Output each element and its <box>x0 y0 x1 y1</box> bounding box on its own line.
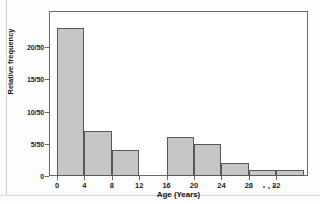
y-tick-label: 5/50 <box>31 140 44 147</box>
histogram-bar <box>112 150 139 176</box>
y-tick-label: 20/50 <box>27 44 44 51</box>
y-tick-mark <box>45 144 49 145</box>
histogram-bar <box>167 137 194 176</box>
x-tick-label: 16 <box>162 181 170 190</box>
x-tick-label: 8 <box>110 181 114 190</box>
x-tick-mark <box>221 176 222 180</box>
y-tick-label: 0 <box>40 173 44 180</box>
x-tick-label: 4 <box>82 181 86 190</box>
histogram-bar <box>194 144 221 176</box>
x-tick-mark <box>57 176 58 180</box>
x-tick-label: 12 <box>135 181 143 190</box>
histogram-bar <box>57 28 84 176</box>
x-tick-label: 20 <box>190 181 198 190</box>
x-tick-mark <box>276 176 277 180</box>
histogram-bar <box>221 163 248 176</box>
y-tick-mark <box>45 176 49 177</box>
plot-area <box>49 11 308 176</box>
y-axis-title: Relative frequency <box>6 14 15 110</box>
y-tick-mark <box>45 47 49 48</box>
y-tick-label: 10/50 <box>27 108 44 115</box>
x-tick-label: 28 <box>245 181 253 190</box>
x-tick-label: 24 <box>217 181 225 190</box>
x-tick-label: 0 <box>55 181 59 190</box>
histogram-bar <box>84 131 111 176</box>
x-tick-mark <box>249 176 250 180</box>
y-tick-mark <box>45 112 49 113</box>
histogram-figure: 05/5010/5015/5020/50 Relative frequency … <box>0 0 320 204</box>
histogram-bar <box>276 170 303 176</box>
x-tick-mark <box>194 176 195 180</box>
x-tick-mark <box>139 176 140 180</box>
x-tick-mark <box>84 176 85 180</box>
histogram-bar <box>249 170 276 176</box>
x-tick-mark <box>112 176 113 180</box>
y-tick-mark <box>45 79 49 80</box>
y-tick-label: 15/50 <box>27 76 44 83</box>
x-tick-label: 32 <box>272 181 280 190</box>
x-axis-title: Age (Years) <box>49 190 308 199</box>
x-tick-mark <box>167 176 168 180</box>
